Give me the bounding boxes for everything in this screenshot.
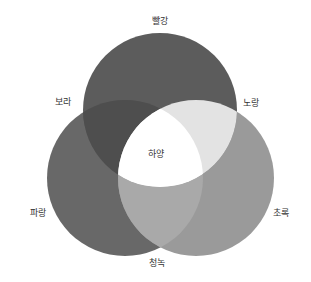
label-purple: 보라 — [55, 95, 71, 108]
label-yellow: 노랑 — [243, 96, 259, 109]
venn-diagram — [0, 0, 311, 282]
label-blue: 파랑 — [30, 206, 46, 219]
label-green: 초록 — [273, 206, 289, 219]
label-red: 빨강 — [152, 14, 168, 27]
label-cyan: 청녹 — [149, 256, 165, 269]
label-white: 하양 — [148, 147, 164, 160]
